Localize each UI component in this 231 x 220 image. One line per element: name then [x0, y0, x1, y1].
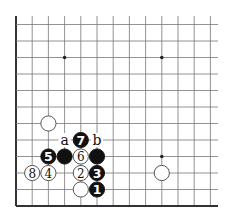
white-stone-icon [73, 182, 88, 197]
black-stone-7: 7 [73, 132, 88, 147]
move-number: 4 [45, 167, 53, 181]
white-stone-4: 4 [41, 165, 56, 180]
black-stone-icon [89, 149, 104, 164]
go-board: ab 12345678 [0, 0, 231, 220]
white-stone-8: 8 [25, 165, 40, 180]
move-number: 7 [76, 133, 85, 148]
star-point-icon [160, 56, 164, 60]
star-point-icon [160, 155, 164, 159]
point-label-a: a [60, 132, 68, 148]
white-stone-2: 2 [73, 165, 88, 180]
black-stone-3: 3 [89, 165, 104, 180]
move-number: 6 [77, 150, 85, 164]
white-stone-icon [154, 165, 169, 180]
point-label-b: b [93, 132, 102, 148]
move-number: 3 [93, 166, 102, 181]
white-stone [73, 182, 88, 197]
move-number: 2 [77, 167, 85, 181]
white-stone [154, 165, 169, 180]
star-point-icon [63, 56, 67, 60]
white-stone [41, 116, 56, 131]
move-number: 5 [44, 149, 53, 164]
black-stone-1: 1 [89, 182, 104, 197]
black-stone [89, 149, 104, 164]
black-stone [57, 149, 72, 164]
white-stone-icon [41, 116, 56, 131]
move-number: 1 [93, 182, 102, 197]
move-number: 8 [28, 167, 36, 181]
black-stone-5: 5 [41, 149, 56, 164]
white-stone-6: 6 [73, 149, 88, 164]
black-stone-icon [57, 149, 72, 164]
